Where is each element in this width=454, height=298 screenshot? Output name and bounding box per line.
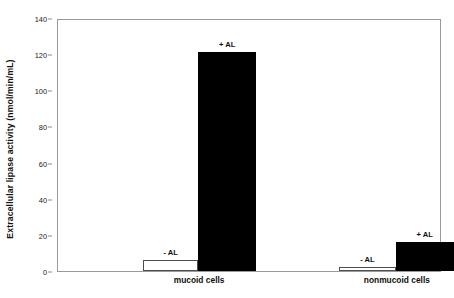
bar: - AL bbox=[143, 260, 198, 271]
y-tick-label: 100 bbox=[35, 87, 47, 96]
y-axis-title: Extracellular lipase activity (nmol/min/… bbox=[0, 0, 20, 298]
plot-area: - AL+ AL- AL+ AL bbox=[57, 19, 441, 272]
bars-container: - AL+ AL- AL+ AL bbox=[58, 20, 440, 271]
y-tick-label: 20 bbox=[39, 231, 47, 240]
y-tick-mark bbox=[48, 55, 52, 56]
y-tick-mark bbox=[48, 272, 52, 273]
x-axis-group-label: mucoid cells bbox=[174, 275, 225, 285]
bar-value-label: - AL bbox=[360, 255, 374, 264]
y-tick-label: 140 bbox=[35, 15, 47, 24]
y-tick-label: 40 bbox=[39, 195, 47, 204]
y-tick-label: 80 bbox=[39, 123, 47, 132]
y-tick-mark bbox=[48, 235, 52, 236]
y-axis-tick-labels: 020406080100120140 bbox=[22, 19, 52, 272]
y-tick-mark bbox=[48, 163, 52, 164]
bar: - AL bbox=[339, 267, 396, 271]
y-tick-mark bbox=[48, 19, 52, 20]
y-tick-label: 120 bbox=[35, 51, 47, 60]
bar-value-label: - AL bbox=[163, 248, 177, 257]
bar-value-label: + AL bbox=[219, 40, 235, 49]
y-tick-mark bbox=[48, 199, 52, 200]
y-tick-mark bbox=[48, 127, 52, 128]
bar: + AL bbox=[198, 52, 256, 271]
y-tick-label: 0 bbox=[43, 268, 47, 277]
y-tick-label: 60 bbox=[39, 159, 47, 168]
bar-chart-figure: Extracellular lipase activity (nmol/min/… bbox=[0, 0, 454, 298]
y-tick-mark bbox=[48, 91, 52, 92]
x-axis-group-labels: mucoid cellsnonmucoid cells bbox=[57, 275, 441, 291]
x-axis-group-label: nonmucoid cells bbox=[364, 275, 430, 285]
bar: + AL bbox=[396, 242, 454, 271]
bar-value-label: + AL bbox=[417, 230, 433, 239]
